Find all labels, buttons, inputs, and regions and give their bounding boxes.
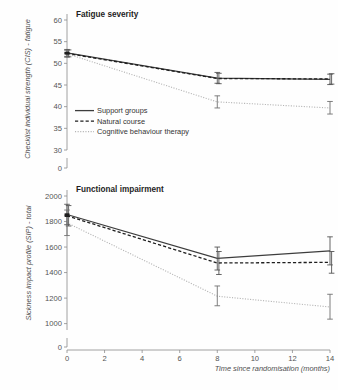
chart-canvas: 303540455055600Checklist individual stre…: [0, 0, 338, 390]
x-tick-label: 2: [102, 354, 106, 363]
x-tick-label: 14: [326, 354, 334, 363]
y-tick-label: 1000: [45, 319, 62, 328]
y-axis-zero-label: 0: [58, 164, 62, 173]
series-line-dashed: [67, 53, 330, 79]
y-tick-label: 35: [54, 124, 62, 133]
y-tick-label: 1800: [45, 217, 62, 226]
legend-label: Natural course: [97, 117, 145, 126]
x-tick-label: 12: [288, 354, 296, 363]
series-line-solid: [67, 215, 330, 259]
y-axis-title: Checklist individual strength (CIS) - fa…: [23, 19, 32, 159]
x-tick-label: 4: [140, 354, 144, 363]
legend: Support groupsNatural courseCognitive be…: [75, 106, 189, 136]
y-tick-label: 30: [54, 146, 62, 155]
series-line-dashed: [67, 216, 330, 263]
y-tick-label: 1200: [45, 294, 62, 303]
y-tick-label: 60: [54, 16, 62, 25]
x-axis: 02468101214Time since randomisation (mon…: [65, 350, 334, 373]
x-tick-label: 10: [251, 354, 259, 363]
y-axis-zero-label: 0: [58, 343, 62, 352]
y-axis-title: Sickness impact profile (SIP) - total: [24, 205, 33, 320]
baseline-marker: [65, 215, 70, 217]
series-line-dotted: [67, 223, 330, 307]
legend-item: Natural course: [75, 117, 145, 126]
y-tick-label: 1400: [45, 268, 62, 277]
y-tick-label: 40: [54, 102, 62, 111]
y-tick-label: 50: [54, 59, 62, 68]
error-bar: [214, 96, 220, 108]
y-tick-label: 45: [54, 81, 62, 90]
legend-item: Cognitive behaviour therapy: [75, 127, 189, 136]
panel-title: Fatigue severity: [76, 10, 139, 19]
panel-title: Functional impairment: [76, 185, 164, 194]
legend-item: Support groups: [75, 106, 148, 115]
series-line-dotted: [67, 54, 330, 108]
x-tick-label: 8: [215, 354, 219, 363]
x-tick-label: 0: [65, 354, 69, 363]
panel-functional-impairment: 1000120014001600180020000Sickness impact…: [24, 185, 334, 352]
legend-label: Cognitive behaviour therapy: [97, 127, 189, 136]
y-tick-label: 55: [54, 37, 62, 46]
x-tick-label: 6: [178, 354, 182, 363]
figure-container: 303540455055600Checklist individual stre…: [0, 0, 338, 390]
panel-fatigue-severity: 303540455055600Checklist individual stre…: [23, 10, 334, 173]
baseline-marker: [65, 52, 70, 54]
y-tick-label: 2000: [45, 192, 62, 201]
x-axis-title: Time since randomisation (months): [215, 364, 331, 373]
y-tick-label: 1600: [45, 243, 62, 252]
legend-label: Support groups: [97, 106, 148, 115]
